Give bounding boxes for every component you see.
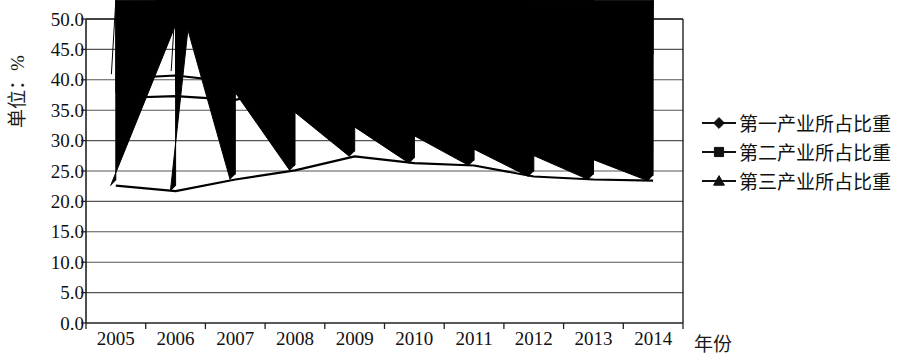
x-axis-tick-label: 2007: [205, 329, 265, 348]
legend-label: 第一产业所占比重: [739, 109, 891, 136]
x-axis-tick-label: 2009: [325, 329, 385, 348]
legend-marker-diamond-icon: [700, 113, 738, 133]
legend-label: 第三产业所占比重: [739, 167, 891, 194]
x-axis-tick-label: 2010: [384, 329, 444, 348]
chart-legend: 第一产业所占比重第二产业所占比重第三产业所占比重: [700, 108, 905, 195]
x-axis-title: 年份: [694, 329, 732, 356]
x-axis-tick-label: 2014: [623, 329, 683, 348]
x-axis-tick-label: 2013: [563, 329, 623, 348]
legend-label: 第二产业所占比重: [739, 138, 891, 165]
legend-item-1[interactable]: 第一产业所占比重: [700, 108, 905, 137]
legend-item-2[interactable]: 第二产业所占比重: [700, 137, 905, 166]
x-axis-tick-label: 2008: [265, 329, 325, 348]
x-axis-tick-label: 2005: [86, 329, 146, 348]
legend-marker-triangle-icon: [700, 171, 738, 191]
legend-item-3[interactable]: 第三产业所占比重: [700, 166, 905, 195]
x-axis-tick-label: 2012: [504, 329, 564, 348]
legend-marker-square-icon: [700, 142, 738, 162]
x-axis-tick-label: 2006: [146, 329, 206, 348]
x-axis-tick-label: 2011: [444, 329, 504, 348]
